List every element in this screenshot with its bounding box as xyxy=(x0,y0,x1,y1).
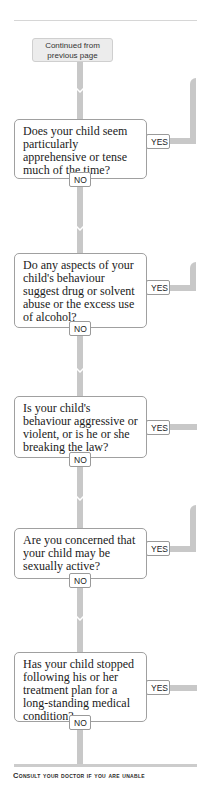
chevron-down-icon xyxy=(76,226,84,231)
no-label-q4: NO xyxy=(69,573,91,588)
yes-label-q2: YES xyxy=(146,280,170,295)
chevron-down-icon xyxy=(76,496,84,501)
yes-connector-q1 xyxy=(170,138,191,144)
chevron-down-icon xyxy=(76,88,84,93)
question-box-apprehensive: Does your child seem particularly appreh… xyxy=(14,119,147,179)
top-divider xyxy=(14,20,197,21)
bottom-divider xyxy=(14,764,197,767)
yes-connector-q3 xyxy=(170,424,197,430)
connector-q1-q2 xyxy=(77,187,83,253)
footer-text: Consult your doctor if you are unable xyxy=(13,771,197,780)
question-box-treatment-plan: Has your child stopped following his or … xyxy=(14,652,147,722)
no-label-q1: NO xyxy=(69,172,91,187)
yes-connector-q4 xyxy=(170,546,191,552)
chevron-down-icon xyxy=(76,616,84,621)
yes-label-q3: YES xyxy=(146,420,170,435)
connector-q5-bottom xyxy=(77,730,83,764)
yes-branch-q1 xyxy=(190,78,196,144)
no-label-q5: NO xyxy=(69,715,91,730)
yes-label-q4: YES xyxy=(146,541,170,556)
question-box-substance-abuse: Do any aspects of your child's behaviour… xyxy=(14,253,147,328)
start-box-continued: Continued from previous page xyxy=(32,38,113,62)
no-label-q2: NO xyxy=(69,321,91,336)
yes-label-q5: YES xyxy=(146,680,170,695)
yes-branch-q2 xyxy=(190,262,196,291)
question-box-sexually-active: Are you concerned that your child may be… xyxy=(14,528,147,579)
yes-label-q1: YES xyxy=(146,134,170,149)
yes-branch-q4 xyxy=(190,505,196,552)
no-label-q3: NO xyxy=(69,452,91,467)
yes-connector-q5 xyxy=(170,685,197,691)
connector-q2-q3 xyxy=(77,336,83,396)
yes-connector-q2 xyxy=(170,285,191,291)
chevron-down-icon xyxy=(76,368,84,373)
question-box-aggressive: Is your child's behaviour aggressive or … xyxy=(14,396,147,458)
